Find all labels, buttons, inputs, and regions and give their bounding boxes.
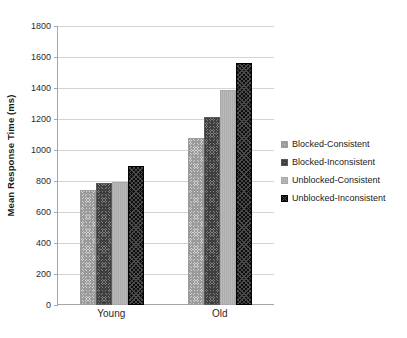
bar [128,166,144,306]
bar [236,63,252,305]
legend-swatch-icon [281,159,288,166]
y-axis-title: Mean Response Time (ms) [0,0,22,310]
legend-item-label: Blocked-Inconsistent [292,157,375,167]
y-axis-title-label: Mean Response Time (ms) [6,94,17,216]
legend-item: Blocked-Consistent [281,136,407,152]
y-axis-tick-label: 1800 [31,21,51,31]
y-axis-tick-label: 800 [36,176,51,186]
x-axis-tick-labels: YoungOld [57,308,274,319]
x-axis-tick-label: Young [57,308,166,319]
bar-group [58,26,166,305]
bar-group [166,26,274,305]
bar [204,117,220,305]
y-axis-tick-labels: 180016001400120010008006004002000 [20,20,54,306]
bar [188,138,204,305]
bar [112,182,128,305]
chart-legend: Blocked-ConsistentBlocked-InconsistentUn… [281,136,407,208]
bar [220,90,236,305]
y-axis-tick-label: 0 [46,300,51,310]
legend-item: Unblocked-Inconsistent [281,190,407,206]
y-axis-tick-label: 1200 [31,114,51,124]
bar [80,190,96,305]
y-axis-tick-label: 1600 [31,52,51,62]
legend-swatch-icon [281,195,288,202]
legend-swatch-icon [281,177,288,184]
legend-swatch-icon [281,141,288,148]
bar [96,183,112,305]
legend-item: Unblocked-Consistent [281,172,407,188]
legend-item: Blocked-Inconsistent [281,154,407,170]
legend-item-label: Unblocked-Inconsistent [292,193,386,203]
bar-groups [58,26,274,305]
plot-area [57,26,274,305]
bar-chart: Mean Response Time (ms) 1800160014001200… [0,0,407,338]
x-axis-tick-label: Old [166,308,275,319]
legend-item-label: Blocked-Consistent [292,139,370,149]
y-axis-tick-label: 400 [36,238,51,248]
legend-item-label: Unblocked-Consistent [292,175,380,185]
y-axis-tick-label: 1000 [31,145,51,155]
y-axis-tick-label: 1400 [31,83,51,93]
y-axis-tick [54,305,58,306]
y-axis-tick-label: 200 [36,269,51,279]
y-axis-tick-label: 600 [36,207,51,217]
